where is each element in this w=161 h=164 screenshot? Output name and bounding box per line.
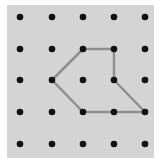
peg-dot (80, 109, 87, 116)
peg-dot (17, 14, 24, 21)
peg-dot (142, 14, 149, 21)
peg-dot (111, 46, 118, 53)
peg-dot (80, 14, 87, 21)
peg-dot (17, 109, 24, 116)
peg-dot (49, 77, 56, 84)
peg-dot (49, 14, 56, 21)
peg-dot (142, 141, 149, 148)
peg-dot (80, 141, 87, 148)
peg-dot (17, 46, 24, 53)
peg-dot (49, 141, 56, 148)
peg-dot (142, 109, 149, 116)
peg-dot (111, 14, 118, 21)
peg-dot (49, 46, 56, 53)
peg-dot (17, 77, 24, 84)
peg-dot (142, 77, 149, 84)
geoboard-diagram (0, 0, 161, 164)
peg-dot (80, 46, 87, 53)
pentagon-shape (52, 49, 145, 112)
peg-dot (111, 77, 118, 84)
peg-dot (80, 77, 87, 84)
peg-dot (49, 109, 56, 116)
peg-dot (111, 141, 118, 148)
peg-dot (142, 46, 149, 53)
peg-dot (17, 141, 24, 148)
peg-dot (111, 109, 118, 116)
